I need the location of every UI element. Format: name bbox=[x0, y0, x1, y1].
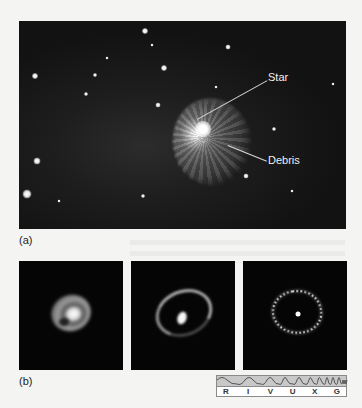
ring-core bbox=[296, 312, 301, 317]
spectrum-bar: R I V U X G bbox=[216, 375, 347, 397]
ring-image-3 bbox=[243, 261, 347, 370]
nebula-photograph: Star Debris bbox=[19, 21, 346, 229]
panel-b-label: (b) bbox=[19, 375, 32, 387]
field-star bbox=[58, 200, 61, 203]
band-u: U bbox=[288, 387, 298, 397]
field-star bbox=[84, 92, 88, 96]
ring-shadow bbox=[59, 318, 69, 326]
field-star bbox=[141, 194, 145, 198]
band-x: X bbox=[310, 387, 320, 397]
panel-a-label: (a) bbox=[19, 234, 32, 246]
field-star bbox=[32, 73, 38, 79]
field-star bbox=[156, 103, 161, 108]
show-through-text bbox=[130, 237, 345, 263]
field-star bbox=[272, 127, 276, 131]
band-r: R bbox=[221, 387, 231, 397]
central-star bbox=[195, 121, 211, 137]
ring-blob bbox=[46, 290, 96, 338]
field-star bbox=[142, 28, 148, 34]
field-star bbox=[291, 190, 294, 193]
field-star bbox=[244, 174, 249, 179]
field-star bbox=[226, 45, 231, 50]
debris-label: Debris bbox=[268, 154, 300, 166]
band-g: G bbox=[332, 387, 342, 397]
field-star bbox=[151, 44, 154, 47]
band-i: I bbox=[243, 387, 253, 397]
field-star bbox=[106, 57, 109, 60]
ring-image-1 bbox=[19, 261, 123, 370]
field-star bbox=[93, 73, 97, 77]
field-star bbox=[161, 65, 167, 71]
field-star bbox=[332, 83, 335, 86]
field-star bbox=[34, 158, 41, 165]
star-label: Star bbox=[268, 71, 288, 83]
ring-image-2 bbox=[131, 261, 235, 370]
field-star bbox=[23, 190, 32, 199]
spectrum-band-labels: R I V U X G bbox=[217, 387, 346, 397]
band-v: V bbox=[265, 387, 275, 397]
wavelength-wave-icon bbox=[217, 376, 346, 387]
field-star bbox=[215, 86, 218, 89]
